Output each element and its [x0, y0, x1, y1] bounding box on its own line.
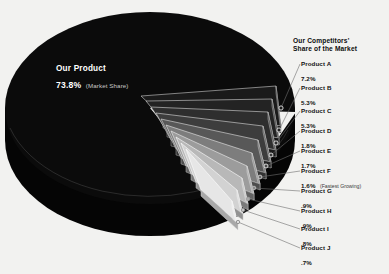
label-product-f-name: Product F [301, 167, 361, 174]
our-product-label: Our Product 73.8% (Market Share) [56, 64, 129, 92]
label-product-g-name: Product G [301, 187, 332, 194]
our-product-value: 73.8% [56, 80, 81, 90]
label-product-a-value: 7.2% [301, 75, 316, 82]
chart-canvas: Our Product 73.8% (Market Share) Our Com… [0, 0, 389, 274]
label-product-b-value: 5.3% [301, 99, 316, 106]
legend-title: Our Competitors' Share of the Market [293, 37, 357, 54]
label-product-b-name: Product B [301, 84, 331, 91]
label-product-d-name: Product D [301, 127, 331, 134]
legend-title-line2: Share of the Market [293, 45, 357, 53]
label-product-a: Product A 7.2% [301, 60, 331, 85]
label-product-j-name: Product J [301, 244, 330, 251]
label-product-c-name: Product C [301, 107, 331, 114]
label-product-j: Product J .7% [301, 244, 330, 269]
our-product-note: (Market Share) [86, 82, 129, 89]
legend-title-line1: Our Competitors' [293, 37, 357, 45]
label-product-j-value: .7% [301, 259, 312, 266]
label-product-e-name: Product E [301, 147, 331, 154]
label-product-h-name: Product H [301, 207, 331, 214]
label-product-i-name: Product I [301, 225, 329, 232]
our-product-name: Our Product [56, 64, 129, 74]
label-product-b: Product B 5.3% [301, 84, 331, 109]
label-product-a-name: Product A [301, 60, 331, 67]
